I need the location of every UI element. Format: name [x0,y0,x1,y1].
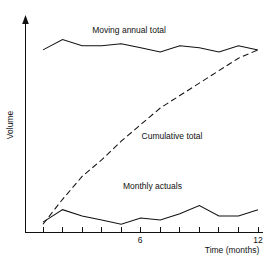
y-axis-arrow-icon [22,15,29,24]
y-axis-title: Volume [5,111,15,140]
series-annotation-monthly-actuals: Monthly actuals [123,181,182,191]
series-line-moving-annual-total [43,40,258,52]
series-line-monthly-actuals [43,206,258,225]
x-axis [26,227,264,233]
y-axis [22,15,29,233]
x-tick-label-6: 6 [138,235,143,245]
x-axis-ticks [43,227,258,233]
chart-canvas: 6 12 Time (months) Volume Moving annual … [0,0,273,258]
x-axis-title: Time (months) [205,245,260,255]
x-tick-label-12: 12 [253,235,263,245]
series-annotation-cumulative-total: Cumulative total [142,131,203,141]
series-annotation-moving-annual-total: Moving annual total [92,25,166,35]
chart-figure: 6 12 Time (months) Volume Moving annual … [0,0,273,258]
